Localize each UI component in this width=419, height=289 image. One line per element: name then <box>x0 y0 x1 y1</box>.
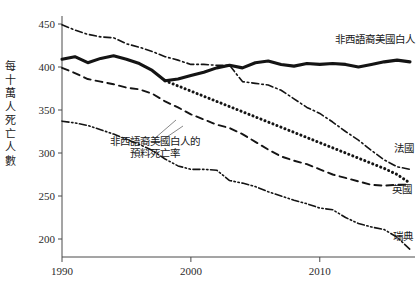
y-tick-label: 400 <box>39 61 56 73</box>
series-label-uk: 英國 <box>392 183 412 195</box>
series-path-0 <box>62 56 410 81</box>
annotation-projected-mortality: 非西語裔美國白人的 預料死亡率 <box>110 135 200 159</box>
chart-axes: 450400350300250200199020002010 <box>39 16 416 277</box>
y-tick-label: 200 <box>39 233 56 245</box>
x-tick-label: 2010 <box>309 265 332 277</box>
series-path-2 <box>62 68 410 186</box>
y-tick-label: 450 <box>39 18 56 30</box>
y-tick-label: 350 <box>39 104 56 116</box>
chart-container: 每 十 萬 人 死 亡 人 數 450400350300250200199020… <box>0 0 419 289</box>
x-tick-label: 1990 <box>51 265 74 277</box>
series-label-france: 法國 <box>394 142 414 154</box>
series-path-4 <box>165 81 410 183</box>
series-label-sweden: 瑞典 <box>393 230 413 242</box>
x-tick-label: 2000 <box>180 265 203 277</box>
y-tick-label: 300 <box>39 147 56 159</box>
series-label-us: 非西語裔美國白人 <box>335 33 415 45</box>
y-tick-label: 250 <box>39 190 56 202</box>
annotation-line-1: 非西語裔美國白人的 <box>110 135 200 147</box>
annotation-line-2: 預料死亡率 <box>130 147 180 159</box>
